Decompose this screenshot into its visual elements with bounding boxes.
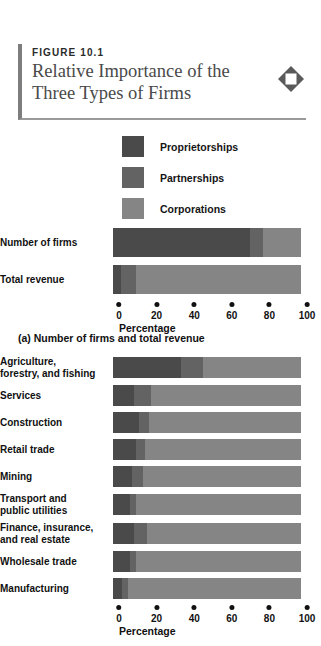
bar-segment-proprietorships <box>113 412 139 433</box>
chart-b-rows: Agriculture, forestry, and fishingServic… <box>0 356 321 599</box>
chart-row: Number of firms <box>0 228 321 257</box>
bar-segment-corporations <box>143 466 301 487</box>
chart-b-axis: Percentage 020406080100 <box>119 605 307 639</box>
axis-tick-dot <box>305 302 310 307</box>
bar-segment-corporations <box>136 551 301 572</box>
axis-tick: 40 <box>189 302 200 321</box>
bar-segment-proprietorships <box>113 523 134 544</box>
stacked-bar <box>113 578 301 599</box>
bar-segment-proprietorships <box>113 357 181 378</box>
legend-label-proprietorships: Proprietorships <box>160 141 238 153</box>
axis-tick-dot <box>267 302 272 307</box>
axis-tick-label: 0 <box>116 310 122 321</box>
stacked-bar <box>113 466 301 487</box>
axis-tick-label: 40 <box>189 310 200 321</box>
chart-a-rows: Number of firmsTotal revenue <box>0 228 321 294</box>
stacked-bar <box>113 551 301 572</box>
legend-swatch-proprietorships <box>122 136 144 157</box>
stacked-bar <box>113 494 301 515</box>
bar-segment-partnerships <box>139 412 148 433</box>
legend-item-corporations: Corporations <box>122 196 238 221</box>
chart-row: Retail trade <box>0 439 321 460</box>
axis-tick-label: 80 <box>264 613 275 624</box>
axis-tick: 60 <box>226 302 237 321</box>
bar-segment-corporations <box>136 494 301 515</box>
stacked-bar <box>113 265 301 294</box>
chart-a-axis: Percentage 020406080100 <box>119 302 307 336</box>
axis-tick: 20 <box>151 302 162 321</box>
bar-segment-corporations <box>128 578 301 599</box>
chart-row-label: Mining <box>0 471 113 483</box>
axis-tick: 80 <box>264 302 275 321</box>
bar-segment-proprietorships <box>113 439 136 460</box>
chart-row: Agriculture, forestry, and fishing <box>0 356 321 379</box>
chart-panel-b: Agriculture, forestry, and fishingServic… <box>0 356 321 639</box>
figure-title-line-2: Three Types of Firms <box>32 82 272 104</box>
axis-tick-dot <box>229 302 234 307</box>
chart-row: Mining <box>0 466 321 487</box>
chart-row-label: Services <box>0 390 113 402</box>
stacked-bar <box>113 412 301 433</box>
legend-item-partnerships: Partnerships <box>122 165 238 190</box>
axis-tick: 100 <box>299 302 316 321</box>
legend-swatch-corporations <box>122 198 144 219</box>
bar-segment-corporations <box>136 265 301 294</box>
bar-segment-partnerships <box>121 265 136 294</box>
axis-tick-dot <box>192 302 197 307</box>
axis-tick-label: 80 <box>264 310 275 321</box>
bar-segment-partnerships <box>132 466 143 487</box>
bar-segment-partnerships <box>134 523 147 544</box>
chart-panel-a: Number of firmsTotal revenue Percentage … <box>0 228 321 336</box>
legend-swatch-partnerships <box>122 167 144 188</box>
axis-tick: 40 <box>189 605 200 624</box>
chart-row: Services <box>0 385 321 406</box>
bar-segment-proprietorships <box>113 466 132 487</box>
bar-segment-corporations <box>149 412 301 433</box>
chart-row-label: Transport and public utilities <box>0 493 113 516</box>
bar-segment-corporations <box>147 523 301 544</box>
bar-segment-corporations <box>263 228 301 257</box>
figure-number-label: FIGURE 10.1 <box>32 47 306 58</box>
chart-row-label: Manufacturing <box>0 583 113 595</box>
bar-segment-proprietorships <box>113 578 122 599</box>
stacked-bar <box>113 357 301 378</box>
axis-tick: 80 <box>264 605 275 624</box>
axis-tick-dot <box>154 605 159 610</box>
axis-tick-label: 20 <box>151 613 162 624</box>
axis-tick-dot <box>117 302 122 307</box>
legend-item-proprietorships: Proprietorships <box>122 134 238 159</box>
stacked-bar <box>113 385 301 406</box>
axis-tick-label: 20 <box>151 310 162 321</box>
bar-segment-corporations <box>151 385 301 406</box>
figure-title-line-1: Relative Importance of the <box>32 60 272 82</box>
diamond-icon <box>278 66 304 92</box>
axis-tick: 100 <box>299 605 316 624</box>
axis-tick-label: 60 <box>226 310 237 321</box>
figure-title: Relative Importance of the Three Types o… <box>32 60 272 104</box>
figure-header: FIGURE 10.1 Relative Importance of the T… <box>18 44 306 120</box>
bar-segment-proprietorships <box>113 385 134 406</box>
chart-row: Manufacturing <box>0 578 321 599</box>
bar-segment-partnerships <box>250 228 263 257</box>
axis-tick-label: 60 <box>226 613 237 624</box>
bar-segment-proprietorships <box>113 494 130 515</box>
chart-row-label: Number of firms <box>0 237 113 249</box>
bar-segment-corporations <box>203 357 301 378</box>
stacked-bar <box>113 228 301 257</box>
chart-row-label: Finance, insurance, and real estate <box>0 522 113 545</box>
axis-tick-dot <box>267 605 272 610</box>
axis-tick-label: 100 <box>299 310 316 321</box>
chart-row: Wholesale trade <box>0 551 321 572</box>
chart-row: Total revenue <box>0 265 321 294</box>
chart-b-axis-title: Percentage <box>119 625 176 637</box>
axis-tick-dot <box>154 302 159 307</box>
axis-tick-label: 40 <box>189 613 200 624</box>
bar-segment-corporations <box>145 439 301 460</box>
bar-segment-proprietorships <box>113 265 121 294</box>
chart-row-label: Total revenue <box>0 274 113 286</box>
panel-a-caption: (a) Number of firms and total revenue <box>18 332 205 344</box>
bar-segment-partnerships <box>136 439 145 460</box>
chart-row-label: Retail trade <box>0 444 113 456</box>
axis-tick-dot <box>192 605 197 610</box>
chart-row-label: Agriculture, forestry, and fishing <box>0 356 113 379</box>
